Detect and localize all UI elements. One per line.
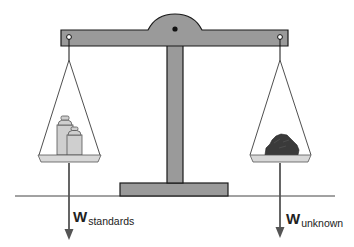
right-pan [250,155,311,162]
left-force-label: Wstandards [73,208,134,226]
right-force-arrow [276,163,285,238]
left-hook-icon [67,35,72,40]
left-force-arrow [65,163,74,240]
scale-post [167,44,183,183]
left-pan [38,155,101,162]
unknown-sample [265,134,299,155]
right-force-label: Wunknown [286,210,343,228]
standard-weights [57,116,82,155]
right-force-symbol: W [286,210,300,227]
pivot-icon [172,26,177,31]
scale-base [120,183,228,196]
right-force-subscript: unknown [301,217,343,229]
left-force-subscript: standards [88,215,134,227]
left-force-symbol: W [73,208,87,225]
right-hook-icon [278,35,283,40]
